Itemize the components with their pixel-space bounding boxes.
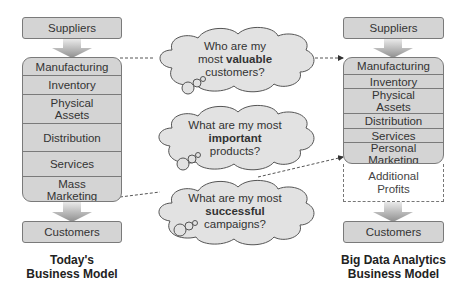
cloud-1-line2: most valuable — [180, 53, 290, 66]
left-customers-label: Customers — [44, 226, 100, 238]
cloud-3-text: What are my most successful campaigns? — [180, 192, 290, 231]
right-down-arrow-bottom-icon — [373, 202, 413, 222]
right-row-physical-assets: Physical Assets — [344, 88, 443, 113]
left-caption: Today's Business Model — [22, 253, 122, 281]
right-down-arrow-top-icon — [373, 39, 413, 58]
left-row-services: Services — [23, 151, 121, 176]
left-caption-line1: Today's — [22, 253, 122, 267]
right-caption-line2: Business Model — [333, 267, 454, 281]
cloud-1-text: Who are my most valuable customers? — [180, 40, 290, 79]
right-row-inventory: Inventory — [344, 74, 443, 88]
right-row-manufacturing: Manufacturing — [344, 58, 443, 74]
right-customers-box: Customers — [343, 221, 444, 243]
cloud-1-emphasis: valuable — [226, 53, 272, 65]
left-row-distribution: Distribution — [23, 123, 121, 151]
right-caption: Big Data Analytics Business Model — [333, 253, 454, 281]
row-label: Distribution — [365, 115, 423, 127]
cloud-1-line1: Who are my — [180, 40, 290, 53]
right-business-stack: Manufacturing Inventory Physical Assets … — [343, 57, 444, 164]
right-suppliers-box: Suppliers — [343, 17, 444, 39]
left-row-manufacturing: Manufacturing — [23, 58, 121, 75]
left-down-arrow-bottom-icon — [52, 202, 92, 222]
row-label: Inventory — [48, 79, 95, 91]
left-caption-line2: Business Model — [22, 267, 122, 281]
left-down-arrow-top-icon — [52, 39, 92, 58]
right-row-distribution: Distribution — [344, 113, 443, 128]
right-customers-label: Customers — [366, 226, 422, 238]
cloud-2-emphasis: important — [208, 132, 261, 144]
row-label: Personal Marketing — [366, 142, 421, 164]
cloud-3-emphasis: successful — [205, 205, 264, 217]
row-label: Services — [371, 130, 415, 142]
cloud-3-line1: What are my most — [180, 192, 290, 205]
left-suppliers-label: Suppliers — [48, 22, 96, 34]
right-row-services: Services — [344, 128, 443, 142]
cloud-1-most: most — [198, 53, 226, 65]
cloud-3-line2: successful — [180, 205, 290, 218]
right-row-personal-marketing: Personal Marketing — [344, 142, 443, 164]
left-business-stack: Manufacturing Inventory Physical Assets … — [22, 57, 122, 202]
cloud-2-text: What are my most important products? — [180, 119, 290, 158]
cloud-3-line3: campaigns? — [180, 218, 290, 231]
row-label: Physical Assets — [366, 89, 421, 113]
row-label: Manufacturing — [36, 61, 109, 73]
cloud-2-line3: products? — [180, 145, 290, 158]
right-additional-profits-box: Additional Profits — [343, 164, 444, 202]
cloud-2-line2: important — [180, 132, 290, 145]
row-label: Manufacturing — [357, 60, 430, 72]
row-label: Distribution — [43, 132, 101, 144]
left-customers-box: Customers — [22, 221, 122, 243]
additional-profits-label: Additional Profits — [368, 170, 419, 196]
cloud-2-line1: What are my most — [180, 119, 290, 132]
left-row-inventory: Inventory — [23, 75, 121, 94]
right-caption-line1: Big Data Analytics — [333, 253, 454, 267]
row-label: Services — [50, 158, 94, 170]
row-label: Inventory — [370, 76, 417, 88]
left-row-mass-marketing: Mass Marketing — [23, 176, 121, 202]
left-row-physical-assets: Physical Assets — [23, 94, 121, 123]
row-label: Mass Marketing — [47, 178, 98, 202]
left-suppliers-box: Suppliers — [22, 17, 122, 39]
cloud-1-line3: customers? — [180, 66, 290, 79]
right-suppliers-label: Suppliers — [370, 22, 418, 34]
row-label: Physical Assets — [43, 97, 101, 121]
